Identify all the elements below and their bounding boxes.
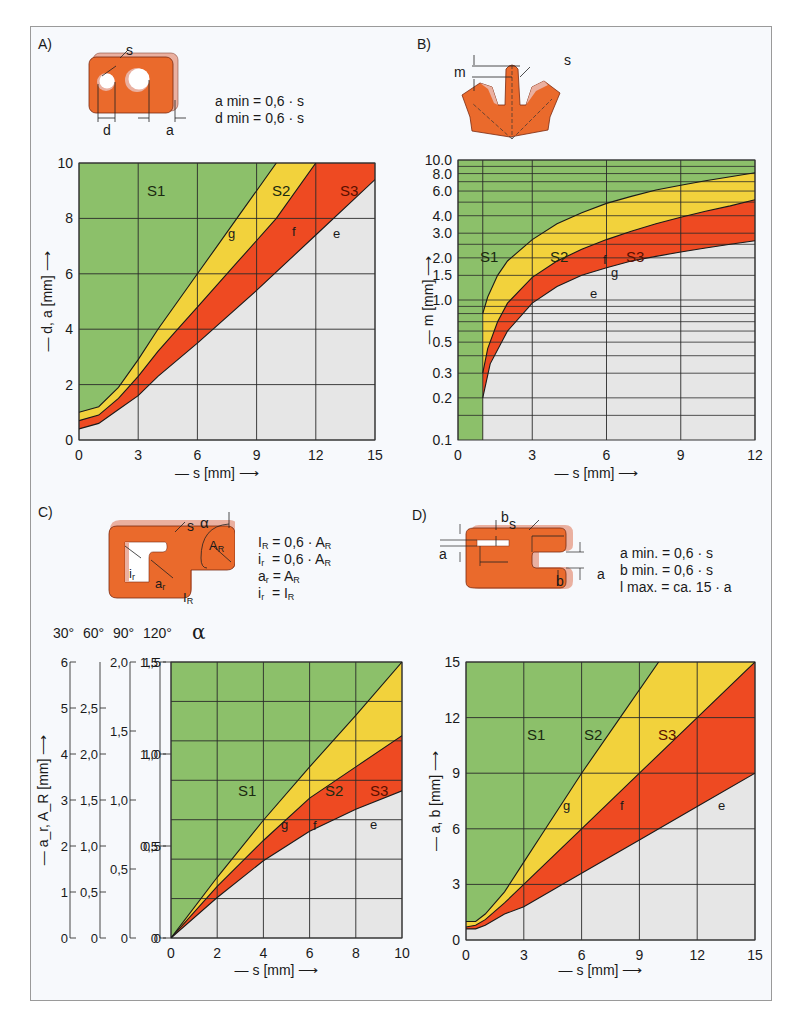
x-axis-label: — s [mm] ⟶: [235, 962, 319, 978]
curve-label-g: g: [611, 265, 618, 280]
y-tick-label: 10: [57, 155, 73, 171]
region-label-s1: S1: [238, 782, 256, 799]
alpha-axis-tick-label: 2,0: [80, 747, 98, 762]
x-tick-label: 9: [636, 947, 644, 963]
y-tick-label: 15: [444, 654, 460, 670]
x-tick-label: 9: [253, 447, 261, 463]
y-tick-label: 1,5: [143, 655, 161, 670]
alpha-axis-tick-label: 3: [61, 793, 68, 808]
region-label-s2: S2: [550, 248, 568, 265]
y-axis-label: — a_r, A_R [mm] ⟶: [35, 735, 51, 865]
y-tick-label: 10.0: [425, 152, 452, 168]
alpha-axis-tick-label: 1,5: [110, 724, 128, 739]
y-tick-label: 9: [452, 765, 460, 781]
x-tick-label: 12: [308, 447, 324, 463]
y-tick-label: 0: [65, 432, 73, 448]
curve-label-f: f: [313, 818, 317, 833]
curve-label-f: f: [292, 224, 296, 239]
y-tick-label: 0: [452, 932, 460, 948]
alpha-axis-tick-label: 1,0: [80, 839, 98, 854]
x-tick-label: 6: [194, 447, 202, 463]
curve-label-e: e: [370, 817, 377, 832]
region-label-s2: S2: [325, 782, 343, 799]
x-tick-label: 6: [306, 945, 314, 961]
curve-label-f: f: [620, 798, 624, 813]
alpha-axis-tick-label: 0: [61, 931, 68, 946]
y-tick-label: 4.0: [433, 208, 453, 224]
chart-a: S1S2S3gfe036912150246810— s [mm] ⟶— d, a…: [0, 0, 796, 1028]
curve-label-e: e: [333, 226, 340, 241]
alpha-axis-tick-label: 1,0: [110, 793, 128, 808]
x-tick-label: 0: [462, 947, 470, 963]
x-tick-label: 3: [520, 947, 528, 963]
x-tick-label: 3: [528, 447, 536, 463]
y-tick-label: 12: [444, 710, 460, 726]
y-tick-label: 3.0: [433, 225, 453, 241]
y-tick-label: 6.0: [433, 183, 453, 199]
y-axis-label: — d, a [mm] ⟶: [39, 251, 55, 351]
chart-a-plot: S1S2S3gfe036912150246810— s [mm] ⟶— d, a…: [39, 0, 415, 481]
curve-label-g: g: [228, 226, 235, 241]
x-tick-label: 6: [603, 447, 611, 463]
y-tick-label: 2: [65, 377, 73, 393]
x-tick-label: 12: [689, 947, 705, 963]
y-axis-label: — a, b [mm] ⟶: [427, 751, 443, 851]
region-label-s3: S3: [340, 182, 358, 199]
x-tick-label: 3: [134, 447, 142, 463]
alpha-axis-tick-label: 0,5: [80, 885, 98, 900]
x-tick-label: 15: [367, 447, 383, 463]
region-label-s1: S1: [480, 248, 498, 265]
region-label-s2: S2: [584, 726, 602, 743]
y-tick-label: 0.3: [433, 365, 453, 381]
alpha-axis-tick-label: 0: [91, 931, 98, 946]
region-label-s1: S1: [147, 182, 165, 199]
x-tick-label: 12: [747, 447, 763, 463]
alpha-axis-tick-label: 1: [61, 885, 68, 900]
x-tick-label: 9: [677, 447, 685, 463]
curve-label-g: g: [563, 798, 570, 813]
x-tick-label: 6: [578, 947, 586, 963]
chart-b-plot: S1S2S3gfe0369120.10.20.30.51.01.52.03.04…: [420, 152, 795, 481]
region-label-s3: S3: [370, 782, 388, 799]
curve-label-e: e: [590, 286, 597, 301]
y-tick-label: 8: [65, 210, 73, 226]
x-tick-label: 2: [213, 945, 221, 961]
curve-label-g: g: [281, 817, 288, 832]
x-axis-label: — s [mm] ⟶: [555, 465, 639, 481]
alpha-axis-tick-label: 4: [61, 747, 68, 762]
x-tick-label: 0: [454, 447, 462, 463]
y-tick-label: 6: [65, 266, 73, 282]
chart-d-plot: S1S2S3gfe0369121503691215— s [mm] ⟶— a, …: [427, 465, 795, 978]
x-tick-label: 15: [747, 947, 763, 963]
alpha-axis-tick-label: 2,5: [80, 701, 98, 716]
y-tick-label: 0.2: [433, 390, 453, 406]
y-tick-label: 6: [452, 821, 460, 837]
x-axis-label: — s [mm] ⟶: [559, 962, 643, 978]
region-label-s2: S2: [272, 182, 290, 199]
y-tick-label: 0,5: [143, 839, 161, 854]
x-tick-label: 0: [75, 447, 83, 463]
y-tick-label: 0: [154, 931, 161, 946]
y-tick-label: 1,0: [143, 747, 161, 762]
curve-label-e: e: [718, 798, 725, 813]
alpha-axis-tick-label: 5: [61, 701, 68, 716]
y-tick-label: 3: [452, 876, 460, 892]
y-tick-label: 4: [65, 321, 73, 337]
x-tick-label: 4: [260, 945, 268, 961]
x-tick-label: 10: [394, 945, 410, 961]
alpha-axis-tick-label: 0: [121, 931, 128, 946]
chart-c-plot: S1S2S3gfe0246810— s [mm] ⟶— a_r, A_R [mm…: [35, 616, 442, 978]
x-tick-label: 8: [352, 945, 360, 961]
curve-label-f: f: [603, 252, 607, 267]
region-label-s3: S3: [626, 248, 644, 265]
alpha-axis-tick-label: 0,5: [110, 862, 128, 877]
alpha-axis-tick-label: 1,5: [80, 793, 98, 808]
x-axis-label: — s [mm] ⟶: [175, 465, 259, 481]
alpha-axis-tick-label: 2,0: [110, 655, 128, 670]
alpha-axis-tick-label: 2: [61, 839, 68, 854]
region-label-s3: S3: [658, 726, 676, 743]
region-label-s1: S1: [527, 726, 545, 743]
alpha-axis-tick-label: 6: [61, 655, 68, 670]
y-axis-label: — m [mm] ⟶: [420, 256, 436, 344]
x-tick-label: 0: [167, 945, 175, 961]
